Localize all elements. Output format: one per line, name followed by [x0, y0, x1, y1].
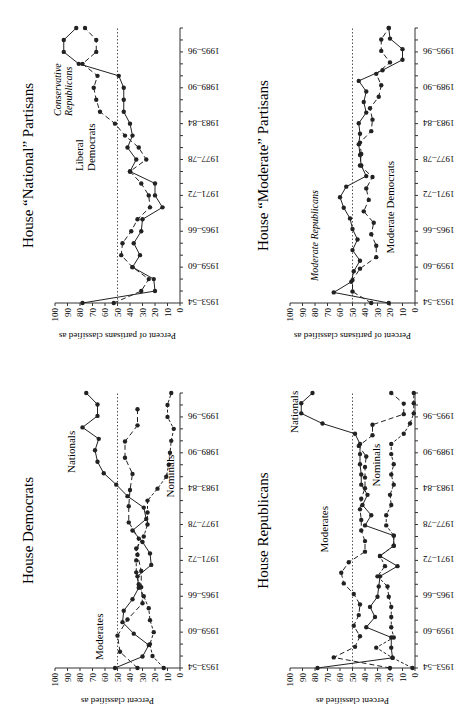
data-point	[149, 563, 153, 567]
data-point	[332, 290, 336, 294]
data-point	[94, 38, 98, 42]
y-tick-label: 20	[150, 308, 160, 318]
data-point	[368, 106, 372, 110]
data-point	[114, 482, 118, 486]
data-point	[363, 486, 367, 490]
data-point	[377, 95, 381, 99]
data-point	[379, 49, 383, 53]
data-point	[387, 26, 391, 30]
data-point	[353, 645, 357, 649]
series-annotation: Moderate Republicans	[309, 190, 320, 282]
data-point	[364, 174, 368, 178]
data-point	[369, 513, 373, 517]
x-tick-label: 1965–66	[188, 225, 220, 235]
x-tick-label: 1977–78	[423, 519, 455, 529]
x-tick-label: 1959–60	[423, 626, 455, 636]
data-point	[122, 609, 126, 613]
y-tick-label: 40	[125, 673, 135, 683]
data-point	[147, 277, 151, 281]
data-point	[147, 193, 151, 197]
data-point	[144, 157, 148, 161]
data-point	[370, 423, 374, 427]
data-point	[137, 145, 141, 149]
x-tick-label: 1971–72	[188, 554, 220, 564]
y-tick-label: 80	[75, 673, 85, 683]
data-point	[373, 615, 377, 619]
data-point	[389, 472, 393, 476]
data-point	[135, 407, 139, 411]
chart-panel-p4: House “National” Partisans01020304050607…	[20, 26, 220, 341]
x-tick-label: 1965–66	[423, 590, 455, 600]
data-point	[74, 26, 78, 30]
y-tick-label: 100	[285, 308, 295, 322]
data-point	[402, 401, 406, 405]
y-tick-label: 0	[175, 673, 185, 678]
data-point	[363, 475, 367, 479]
data-point	[115, 633, 119, 637]
data-point	[94, 98, 98, 102]
data-point	[134, 570, 138, 574]
data-point	[153, 193, 157, 197]
data-point	[148, 205, 152, 209]
chart-title: House Democrats	[20, 477, 36, 584]
data-point	[375, 574, 379, 578]
data-point	[350, 227, 354, 231]
data-point	[80, 301, 84, 305]
data-point	[389, 391, 393, 395]
data-point	[102, 471, 106, 475]
y-tick-label: 70	[323, 308, 333, 318]
y-tick-label: 60	[100, 673, 110, 683]
y-tick-label: 100	[50, 673, 60, 687]
chart-panel-p3: House Democrats0102030405060708090100Per…	[20, 391, 220, 706]
data-point	[169, 439, 173, 443]
data-point	[332, 655, 336, 659]
data-point	[358, 634, 362, 638]
data-point	[392, 635, 396, 639]
data-point	[402, 412, 406, 416]
data-point	[358, 462, 362, 466]
data-point	[384, 513, 388, 517]
data-point	[315, 666, 319, 670]
x-tick-label: 1983–84	[188, 483, 220, 493]
x-tick-label: 1971–72	[423, 554, 455, 564]
data-point	[359, 152, 363, 156]
y-tick-label: 70	[323, 673, 333, 683]
data-point	[363, 523, 367, 527]
data-point	[392, 462, 396, 466]
y-tick-label: 80	[310, 673, 320, 683]
x-tick-label: 1971–72	[188, 189, 220, 199]
series-annotation: Nominals	[164, 455, 176, 498]
y-tick-label: 20	[385, 673, 395, 683]
data-point	[169, 391, 173, 395]
data-point	[358, 140, 362, 144]
x-tick-label: 1977–78	[188, 519, 220, 529]
data-point	[139, 569, 143, 573]
x-tick-label: 1995–96	[188, 46, 220, 56]
data-point	[134, 558, 138, 562]
data-point	[93, 448, 97, 452]
data-point	[357, 79, 361, 83]
data-point	[95, 402, 99, 406]
x-tick-label: 1965–66	[423, 225, 455, 235]
data-point	[148, 642, 152, 646]
y-tick-label: 50	[348, 673, 358, 683]
series-line-a	[301, 393, 397, 668]
data-point	[410, 666, 414, 670]
data-point	[135, 574, 139, 578]
x-tick-label: 1989–90	[188, 82, 220, 92]
y-axis-label: Percent classified as	[316, 696, 389, 706]
data-point	[84, 391, 88, 395]
data-point	[357, 613, 361, 617]
data-point	[352, 592, 356, 596]
data-point	[363, 539, 367, 543]
data-point	[359, 472, 363, 476]
chart-title: House “Moderate” Partisans	[255, 80, 271, 251]
x-tick-label: 1989–90	[423, 82, 455, 92]
data-point	[370, 117, 374, 121]
data-point	[135, 423, 139, 427]
y-axis-label: Percent of partisans classified as	[294, 331, 411, 341]
data-point	[358, 163, 362, 167]
y-tick-label: 20	[150, 673, 160, 683]
y-tick-label: 10	[398, 308, 408, 318]
y-tick-label: 90	[298, 308, 308, 318]
